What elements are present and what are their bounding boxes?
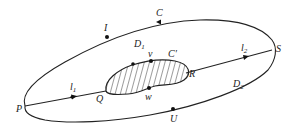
label-S: S [276, 43, 281, 54]
point-U [171, 107, 175, 111]
arrow-on-l2 [243, 55, 249, 60]
label-v: v [148, 48, 153, 59]
point-I [105, 35, 109, 39]
arrow-on-C [156, 20, 161, 25]
label-C: C [156, 7, 163, 18]
label-R: R [188, 68, 195, 79]
label-D1: D1 [133, 38, 145, 51]
cut-line-l1 [25, 91, 106, 106]
label-U: U [170, 113, 178, 124]
cut-line-l2 [186, 50, 272, 73]
label-Q: Q [96, 93, 104, 104]
label-I: I [103, 22, 108, 33]
label-w: w [145, 91, 152, 102]
label-C-prime: C′ [168, 48, 178, 59]
inner-hole-C-prime [106, 60, 189, 95]
point-C-prime-marker [131, 62, 135, 66]
point-v [149, 59, 153, 63]
region-diagram: I C S P U Q R v w C′ D1 D2 l1 l2 [0, 0, 307, 134]
label-l1: l1 [70, 81, 76, 94]
point-l1-mark [70, 95, 73, 98]
label-l2: l2 [241, 42, 248, 55]
label-P: P [15, 103, 22, 114]
point-w [147, 86, 151, 90]
